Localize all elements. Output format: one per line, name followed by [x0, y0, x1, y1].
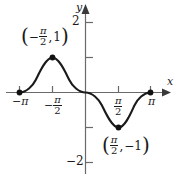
y-tick-label-2: 2	[72, 15, 80, 27]
x-tick-neg-pi-symbol: π	[21, 96, 28, 107]
max-fraction: π 2	[39, 26, 48, 47]
open-paren: (	[102, 137, 110, 153]
x-tick-label-neg-pi-over-2: − π 2	[44, 95, 62, 116]
fraction-numerator: π	[39, 26, 48, 36]
fraction-denominator: 2	[39, 36, 47, 47]
sine-graph-figure: y x 2 −2 − π − π 2 π 2 π ( −	[0, 0, 182, 179]
fraction-denominator: 2	[110, 145, 118, 156]
min-comma: ,	[119, 140, 123, 152]
fraction-numerator: π	[53, 95, 62, 105]
x-tick-pi-symbol: π	[148, 95, 155, 108]
min-fraction: π 2	[110, 135, 119, 156]
min-point-annotation: ( π 2 , −1 )	[102, 135, 150, 156]
y-tick-label-neg-2: −2	[66, 155, 84, 167]
x-axis-label: x	[167, 76, 173, 87]
fraction-denominator: 2	[53, 105, 61, 116]
max-sign: −	[29, 31, 39, 43]
open-paren: (	[21, 28, 29, 44]
max-comma: ,	[48, 31, 52, 43]
fraction-denominator: 2	[114, 106, 122, 117]
max-point-annotation: ( − π 2 , 1 )	[21, 26, 69, 47]
x-tick-neg-pi-sign: −	[12, 96, 21, 107]
fraction-numerator: π	[114, 96, 123, 106]
x-tick-label-pi-over-2: π 2	[114, 95, 123, 117]
point-minimum	[116, 125, 122, 131]
close-paren: )	[142, 137, 150, 153]
max-y-value: 1	[53, 31, 61, 43]
close-paren: )	[61, 28, 69, 44]
x-tick-label-neg-pi: − π	[12, 96, 28, 107]
x-tick-neg-pi-over-2-sign: −	[44, 100, 53, 111]
y-axis	[82, 4, 90, 174]
point-maximum	[50, 55, 56, 61]
min-y-value: −1	[124, 140, 142, 152]
x-tick-neg-pi-over-2-fraction: π 2	[53, 95, 62, 116]
x-tick-pi-over-2-fraction: π 2	[114, 96, 123, 117]
y-axis-label: y	[76, 2, 82, 13]
fraction-numerator: π	[110, 135, 119, 145]
x-tick-label-pi: π	[148, 96, 155, 107]
